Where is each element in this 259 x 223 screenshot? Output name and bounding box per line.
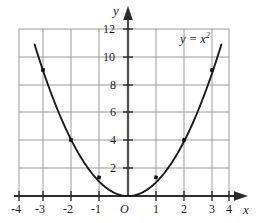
y-tick-label-6: 6 bbox=[110, 106, 116, 118]
x-tick-label-3: 3 bbox=[209, 203, 215, 215]
x-axis-arrow-icon bbox=[234, 191, 248, 201]
origin-label: O bbox=[120, 203, 129, 215]
y-tick-label-4: 4 bbox=[110, 134, 116, 146]
x-tick-label-neg4: -4 bbox=[11, 203, 21, 215]
x-tick-label-4: 4 bbox=[226, 203, 232, 215]
data-point-marker bbox=[154, 175, 158, 179]
data-point-marker bbox=[69, 138, 73, 142]
parabola-graph-figure: 12 10 8 6 4 2 -4 -3 -2 -1 O 1 2 3 4 y x … bbox=[0, 0, 259, 223]
x-tick-label-neg1: -1 bbox=[91, 203, 101, 215]
y-axis bbox=[123, 6, 133, 196]
y-axis-arrow-icon bbox=[123, 6, 133, 20]
curve-equation-text: y = x bbox=[180, 32, 206, 46]
y-tick-label-10: 10 bbox=[103, 51, 115, 63]
x-tick-label-neg2: -2 bbox=[63, 203, 73, 215]
x-tick-label-1: 1 bbox=[153, 203, 159, 215]
graph-canvas bbox=[0, 0, 259, 223]
x-tick-label-2: 2 bbox=[181, 203, 187, 215]
data-point-marker bbox=[182, 138, 186, 142]
x-axis-label: x bbox=[243, 203, 249, 216]
y-tick-label-2: 2 bbox=[110, 162, 116, 174]
y-axis-label: y bbox=[113, 4, 119, 17]
data-point-marker bbox=[210, 68, 214, 72]
y-tick-label-8: 8 bbox=[110, 79, 116, 91]
y-tick-label-12: 12 bbox=[103, 23, 115, 35]
curve-equation-exponent: 2 bbox=[206, 31, 210, 40]
curve-equation-label: y = x2 bbox=[180, 32, 210, 46]
data-point-marker bbox=[41, 68, 45, 72]
data-point-marker bbox=[97, 175, 101, 179]
x-tick-label-neg3: -3 bbox=[35, 203, 45, 215]
